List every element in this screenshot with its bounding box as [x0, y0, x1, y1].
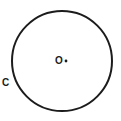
point-label-c: C [2, 78, 9, 88]
center-label-o: O [55, 56, 63, 66]
center-point-dot [65, 60, 68, 63]
geometry-figure: O C [0, 0, 121, 121]
